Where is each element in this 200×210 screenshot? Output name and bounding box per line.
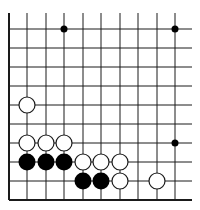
- black-stone: [19, 154, 36, 171]
- black-stone: [56, 154, 73, 171]
- white-stone: [75, 154, 91, 170]
- small-black-marker: [61, 26, 68, 33]
- small-black-marker: [172, 26, 179, 33]
- white-stone: [19, 135, 35, 151]
- white-stone: [19, 97, 35, 113]
- black-stone: [75, 173, 92, 190]
- white-stone: [149, 173, 165, 189]
- black-stone: [93, 173, 110, 190]
- black-stone: [38, 154, 55, 171]
- grid-lines: [9, 13, 192, 200]
- white-stone: [112, 173, 128, 189]
- white-stone: [56, 135, 72, 151]
- white-stone: [93, 154, 109, 170]
- white-stone: [38, 135, 54, 151]
- white-stone: [112, 154, 128, 170]
- go-board: [0, 0, 200, 210]
- small-black-marker: [172, 140, 179, 147]
